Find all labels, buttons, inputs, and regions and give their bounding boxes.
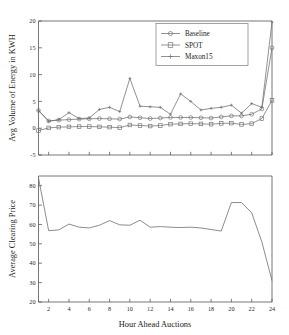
figure-container: -5 0 5 10 15 20 bbox=[0, 0, 289, 335]
bottom-ytick-80: 80 bbox=[29, 182, 35, 189]
bottom-ytick-50: 50 bbox=[29, 240, 35, 247]
bottom-y-axis-title: Average Clearing Price bbox=[8, 200, 17, 278]
bottom-ytick-70: 70 bbox=[29, 201, 35, 208]
bottom-xtick-12: 12 bbox=[147, 305, 153, 312]
bottom-xtick-6: 6 bbox=[88, 305, 91, 312]
bottom-xtick-2: 2 bbox=[47, 305, 50, 312]
bottom-ytick-20: 20 bbox=[29, 298, 35, 305]
top-ytick-5: 5 bbox=[32, 98, 35, 105]
bottom-ytick-40: 40 bbox=[29, 259, 35, 266]
top-y-axis-title: Avg Volume of Energy in KWH bbox=[8, 34, 17, 142]
bottom-xtick-4: 4 bbox=[67, 305, 70, 312]
top-ytick-15: 15 bbox=[29, 44, 35, 51]
bottom-xtick-8: 8 bbox=[108, 305, 111, 312]
bottom-ytick-30: 30 bbox=[29, 279, 35, 286]
bottom-xtick-10: 10 bbox=[127, 305, 133, 312]
chart-svg: -5 0 5 10 15 20 bbox=[0, 0, 289, 335]
legend-label-baseline: Baseline bbox=[185, 30, 210, 38]
top-ytick--5: -5 bbox=[30, 151, 35, 158]
legend[interactable]: Baseline SPOT Maxon15 bbox=[156, 24, 248, 66]
bottom-xtick-14: 14 bbox=[167, 305, 173, 312]
bottom-xtick-24: 24 bbox=[269, 305, 275, 312]
bottom-xtick-20: 20 bbox=[228, 305, 234, 312]
top-ytick-20: 20 bbox=[29, 17, 35, 24]
x-axis-title: Hour Ahead Auctions bbox=[119, 320, 192, 329]
top-ytick-10: 10 bbox=[29, 71, 35, 78]
legend-label-maxon15: Maxon15 bbox=[185, 53, 213, 61]
legend-label-spot: SPOT bbox=[185, 42, 203, 50]
bottom-ytick-60: 60 bbox=[29, 221, 35, 228]
bottom-xtick-22: 22 bbox=[249, 305, 255, 312]
top-ytick-0: 0 bbox=[32, 124, 35, 131]
bottom-xtick-18: 18 bbox=[208, 305, 214, 312]
bottom-xtick-16: 16 bbox=[188, 305, 194, 312]
